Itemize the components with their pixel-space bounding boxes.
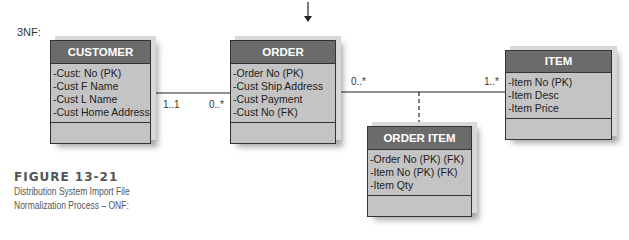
normal-form-label: 3NF:	[17, 26, 41, 38]
entity-methods	[231, 123, 335, 143]
entity-attributes: -Order No (PK) (FK) -Item No (PK) (FK) -…	[368, 150, 471, 196]
attribute: -Cust Ship Address	[233, 80, 333, 93]
entity-order: ORDER -Order No (PK) -Cust Ship Address …	[230, 40, 336, 144]
attribute: -Item Qty	[370, 179, 469, 192]
multiplicity-customer-order-to: 0..*	[209, 99, 224, 110]
attribute: -Cust L Name	[53, 93, 148, 106]
attribute: -Cust Payment	[233, 93, 333, 106]
attribute: -Order No (PK) (FK)	[370, 153, 469, 166]
entity-item: ITEM -Item No (PK) -Item Desc -Item Pric…	[505, 50, 612, 140]
entity-title: ORDER ITEM	[368, 127, 471, 150]
entity-methods	[506, 119, 611, 139]
entity-title: ORDER	[231, 41, 335, 64]
attribute: -Cust: No (PK)	[53, 67, 148, 80]
entity-customer: CUSTOMER -Cust: No (PK) -Cust F Name -Cu…	[50, 40, 151, 144]
entity-order-item: ORDER ITEM -Order No (PK) (FK) -Item No …	[367, 126, 472, 217]
attribute: -Cust F Name	[53, 80, 148, 93]
entity-methods	[368, 196, 471, 216]
figure-number: FIGURE 13-21	[14, 170, 118, 184]
figure-caption-line-1: Distribution System Import File	[14, 186, 130, 197]
entity-title: ITEM	[506, 51, 611, 73]
multiplicity-order-item-from: 0..*	[351, 76, 366, 87]
multiplicity-order-item-to: 1..*	[484, 76, 499, 87]
figure-caption-line-2: Normalization Process – ONF:	[14, 200, 129, 211]
entity-attributes: -Item No (PK) -Item Desc -Item Price	[506, 73, 611, 119]
attribute: -Item No (PK) (FK)	[370, 166, 469, 179]
attribute: -Item Price	[508, 102, 609, 115]
entity-methods	[51, 123, 150, 143]
attribute: -Item No (PK)	[508, 76, 609, 89]
attribute: -Item Desc	[508, 89, 609, 102]
attribute: -Cust Home Address	[53, 106, 148, 119]
attribute: -Cust No (FK)	[233, 106, 333, 119]
entity-attributes: -Cust: No (PK) -Cust F Name -Cust L Name…	[51, 64, 150, 123]
attribute: -Order No (PK)	[233, 67, 333, 80]
entity-attributes: -Order No (PK) -Cust Ship Address -Cust …	[231, 64, 335, 123]
entity-title: CUSTOMER	[51, 41, 150, 64]
multiplicity-customer-order-from: 1..1	[163, 99, 180, 110]
